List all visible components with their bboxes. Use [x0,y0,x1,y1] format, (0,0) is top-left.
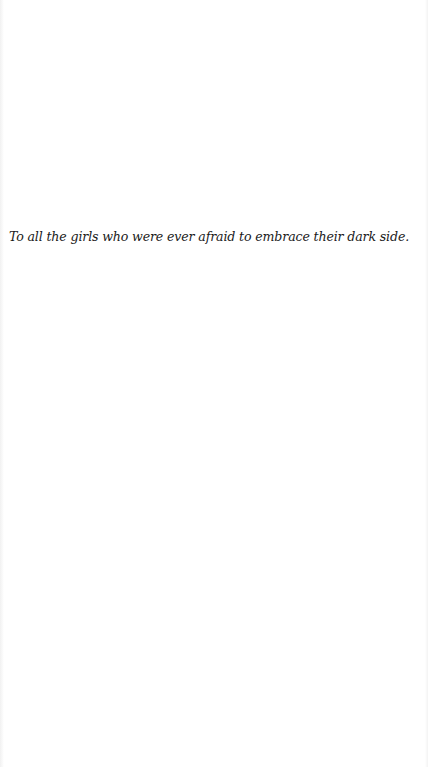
book-page: To all the girls who were ever afraid to… [0,0,428,767]
dedication-text: To all the girls who were ever afraid to… [0,228,418,246]
page-edge-left [0,0,4,767]
